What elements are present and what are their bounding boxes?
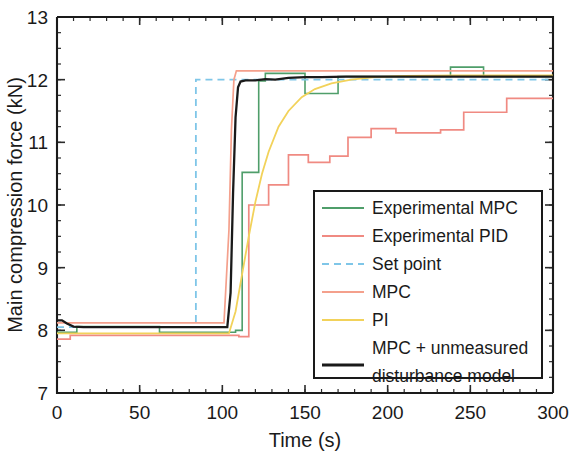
- x-tick-label: 200: [372, 402, 404, 423]
- legend-label-5-line2: disturbance model: [372, 366, 515, 386]
- legend-label-3: MPC: [372, 282, 411, 302]
- x-tick-label: 50: [129, 402, 150, 423]
- x-tick-label: 250: [454, 402, 486, 423]
- y-tick-label: 13: [27, 7, 48, 28]
- y-tick-label: 12: [27, 70, 48, 91]
- legend-label-2: Set point: [372, 254, 441, 274]
- legend-label-0: Experimental MPC: [372, 198, 518, 218]
- x-axis-label: Time (s): [269, 429, 342, 451]
- y-tick-label: 8: [37, 320, 48, 341]
- x-tick-label: 0: [52, 402, 63, 423]
- chart-figure: 050100150200250300 78910111213 Time (s) …: [0, 0, 571, 456]
- y-tick-label: 7: [37, 383, 48, 404]
- x-tick-label: 150: [289, 402, 321, 423]
- y-axis-label: Main compression force (kN): [4, 77, 26, 333]
- legend: Experimental MPCExperimental PIDSet poin…: [314, 191, 542, 386]
- x-tick-label: 300: [537, 402, 569, 423]
- y-tick-label: 11: [28, 132, 48, 153]
- y-tick-label: 9: [37, 258, 48, 279]
- legend-label-4: PI: [372, 310, 389, 330]
- x-tick-label: 100: [206, 402, 238, 423]
- y-tick-label: 10: [27, 195, 48, 216]
- legend-label-1: Experimental PID: [372, 226, 508, 246]
- legend-label-5: MPC + unmeasured: [372, 338, 528, 358]
